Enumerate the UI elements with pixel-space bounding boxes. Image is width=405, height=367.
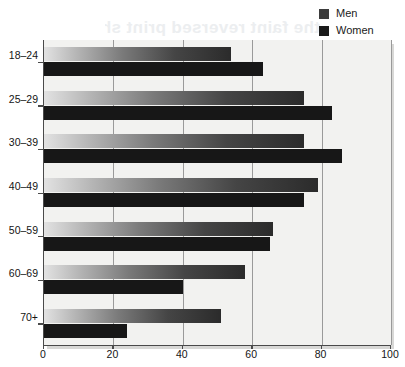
bar-group-60-69 — [44, 265, 391, 294]
bar-group-18-24 — [44, 47, 391, 76]
bar-men-18-24[interactable] — [44, 47, 231, 61]
bar-men-60-69[interactable] — [44, 265, 245, 279]
bar-men-70-[interactable] — [44, 309, 221, 323]
y-tick-40-49 — [38, 193, 43, 194]
bar-women-70-[interactable] — [44, 324, 127, 338]
legend-swatch-women-icon — [319, 26, 329, 36]
y-axis-label-18-24: 18–24 — [0, 50, 38, 61]
y-tick-18-24 — [38, 62, 43, 63]
bar-group-30-39 — [44, 134, 391, 163]
bar-women-50-59[interactable] — [44, 237, 270, 251]
bar-group-25-29 — [44, 91, 391, 120]
legend-item-women[interactable]: Women — [319, 23, 397, 38]
y-axis-label-25-29: 25–29 — [0, 94, 38, 105]
y-axis-label-70-: 70+ — [0, 312, 38, 323]
x-tick-label-80: 80 — [301, 348, 341, 360]
y-tick-60-69 — [38, 280, 43, 281]
x-tick-label-100: 100 — [370, 348, 405, 360]
x-tick-label-0: 0 — [23, 348, 63, 360]
x-tick-label-40: 40 — [162, 348, 202, 360]
chart-legend: Men Women — [319, 6, 397, 40]
legend-label-men: Men — [336, 8, 357, 19]
y-tick-25-29 — [38, 105, 43, 106]
bar-men-25-29[interactable] — [44, 91, 304, 105]
y-tick-70- — [38, 323, 43, 324]
bar-women-40-49[interactable] — [44, 193, 304, 207]
bar-women-30-39[interactable] — [44, 149, 342, 163]
x-tick-label-20: 20 — [92, 348, 132, 360]
bar-women-60-69[interactable] — [44, 280, 183, 294]
y-axis-category-labels: 18–2425–2930–3940–4950–5960–6970+ — [0, 40, 38, 345]
y-tick-30-39 — [38, 149, 43, 150]
x-tick-label-60: 60 — [231, 348, 271, 360]
bar-men-50-59[interactable] — [44, 222, 273, 236]
y-tick-50-59 — [38, 236, 43, 237]
y-axis-label-40-49: 40–49 — [0, 181, 38, 192]
bar-series-container — [44, 40, 391, 345]
bar-group-40-49 — [44, 178, 391, 207]
legend-label-women: Women — [336, 25, 374, 36]
chart-root: the faint reversed print showing through… — [0, 0, 405, 367]
bar-men-40-49[interactable] — [44, 178, 318, 192]
scan-bleedthrough-artifact: the faint reversed print showing through… — [105, 18, 320, 40]
bar-group-50-59 — [44, 222, 391, 251]
y-axis-label-60-69: 60–69 — [0, 268, 38, 279]
y-axis-label-50-59: 50–59 — [0, 225, 38, 236]
x-axis-tick-labels: 020406080100 — [0, 348, 405, 364]
y-axis-label-30-39: 30–39 — [0, 137, 38, 148]
plot-area — [43, 40, 391, 346]
legend-item-men[interactable]: Men — [319, 6, 397, 21]
bar-men-30-39[interactable] — [44, 134, 304, 148]
bar-group-70- — [44, 309, 391, 338]
bar-women-18-24[interactable] — [44, 62, 263, 76]
legend-swatch-men-icon — [319, 9, 329, 19]
bar-women-25-29[interactable] — [44, 106, 332, 120]
